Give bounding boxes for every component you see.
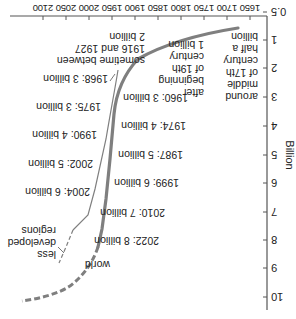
- svg-text:regions: regions: [22, 225, 56, 237]
- y-axis-title: Billion: [284, 140, 296, 169]
- annotation-2-billion: sometime between: [57, 55, 145, 67]
- series-label-less-developed: less: [37, 249, 56, 261]
- x-tick-label: 1700: [217, 3, 237, 14]
- annotation-2002: 2002: 5 billion: [28, 158, 93, 170]
- population-chart: 10 9 8 7 6 5 4 3 2 1 0.5 Billion 1650 17…: [0, 0, 296, 319]
- y-tick-label: 8: [271, 234, 277, 246]
- y-tick-label: 0.5: [271, 6, 286, 18]
- annotation-2022: 2022: 8 billion: [94, 235, 159, 247]
- x-tick-label: 2050: [56, 3, 76, 14]
- annotation-1999: 1999: 6 billion: [114, 177, 179, 189]
- svg-text:beginning: beginning: [158, 75, 204, 87]
- svg-text:middle: middle: [227, 79, 258, 91]
- x-tick-label: 2000: [79, 3, 99, 14]
- annotation-1987: 1987: 5 billion: [118, 149, 183, 161]
- x-tick-label: 1800: [171, 3, 191, 14]
- svg-text:developed: developed: [7, 237, 56, 249]
- y-tick-label: 5: [271, 149, 277, 161]
- less-developed-annotations: 1968: 3 billion 1975: 3 billion 1990: 4 …: [7, 73, 115, 261]
- annotation-2004: 2004: 6 billion: [25, 186, 90, 198]
- annotation-1960: 1960: 3 billion: [123, 92, 188, 104]
- svg-text:century: century: [169, 51, 204, 63]
- annotation-1974: 1974: 4 billion: [121, 120, 186, 132]
- x-tick-label: 1950: [102, 3, 122, 14]
- x-tick-label: 1850: [148, 3, 168, 14]
- y-tick-label: 1: [271, 34, 277, 46]
- y-tick-label: 7: [271, 206, 277, 218]
- world-projection-line: [22, 247, 98, 301]
- y-tick-label: 10: [271, 291, 283, 303]
- annotation-half-billion: around: [225, 91, 258, 103]
- x-tick-label: 1900: [125, 3, 145, 14]
- series-label-world: world: [85, 259, 111, 271]
- rotated-chart-container: 10 9 8 7 6 5 4 3 2 1 0.5 Billion 1650 17…: [0, 0, 296, 319]
- annotation-2010: 2010: 7 billion: [100, 207, 165, 219]
- svg-text:century: century: [223, 55, 258, 67]
- world-annotations: around middle of 17th century half a bil…: [57, 31, 258, 271]
- x-axis: 1650 1700 1750 1800 1850 1900 1950 2000 …: [10, 3, 267, 20]
- less-developed-projection-line: [59, 230, 73, 263]
- y-tick-label: 6: [271, 177, 277, 189]
- annotation-1990: 1990: 4 billion: [32, 129, 97, 141]
- annotation-1975: 1975: 3 billion: [36, 101, 101, 113]
- svg-text:half a: half a: [232, 43, 258, 55]
- annotation-1968: 1968: 3 billion: [43, 73, 108, 85]
- y-tick-label: 2: [271, 62, 277, 74]
- x-tick-label: 2100: [33, 3, 53, 14]
- y-axis: 10 9 8 7 6 5 4 3 2 1 0.5 Billion: [263, 6, 296, 310]
- x-tick-label: 1650: [240, 3, 260, 14]
- y-tick-label: 3: [271, 91, 277, 103]
- svg-text:of 17th: of 17th: [226, 67, 258, 79]
- svg-text:1916 and 1927: 1916 and 1927: [75, 43, 145, 55]
- svg-text:1 billion: 1 billion: [168, 39, 204, 51]
- y-tick-label: 4: [271, 120, 277, 132]
- svg-text:of 19th: of 19th: [172, 63, 204, 75]
- svg-text:2 billion: 2 billion: [109, 31, 145, 43]
- svg-text:billion: billion: [231, 31, 258, 43]
- y-tick-label: 9: [271, 262, 277, 274]
- x-tick-label: 1750: [194, 3, 214, 14]
